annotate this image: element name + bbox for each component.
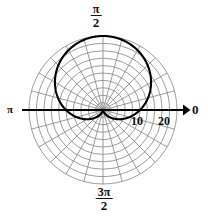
angle-label-pi: π <box>7 104 13 115</box>
angle-label-three-pi-over-2: 3π 2 <box>96 186 113 213</box>
angle-label-pi-over-2: π 2 <box>91 3 102 30</box>
polar-axis-arrowhead <box>183 105 191 116</box>
fraction-denominator: 2 <box>96 199 113 212</box>
fraction-numerator: π <box>91 3 102 16</box>
fraction-three-pi-over-2: 3π 2 <box>96 186 113 212</box>
fraction-numerator: 3π <box>96 186 113 199</box>
fraction-denominator: 2 <box>91 16 102 29</box>
radial-tick-label-20: 20 <box>158 115 170 127</box>
angle-label-zero: 0 <box>192 103 199 116</box>
fraction-pi-over-2: π 2 <box>91 3 102 29</box>
radial-tick-label-10: 10 <box>131 115 143 127</box>
polar-plot-figure: π 2 3π 2 π 0 10 20 <box>0 0 208 220</box>
